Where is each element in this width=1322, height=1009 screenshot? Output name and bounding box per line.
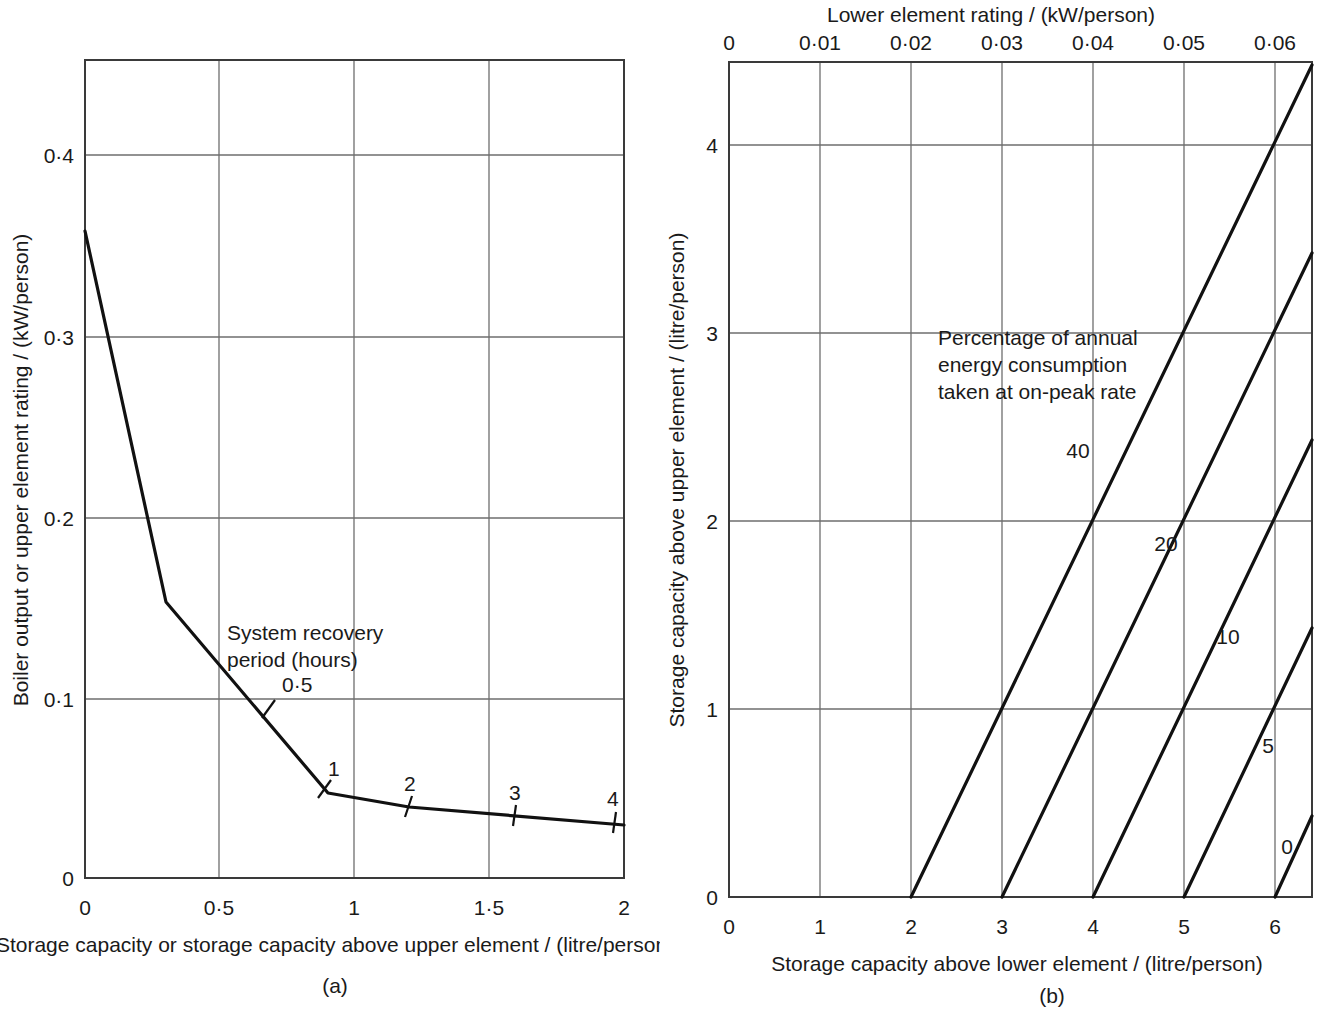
chart-b-line-40 [911, 65, 1312, 897]
chart-a-ytick-0-4: 0·4 [44, 144, 75, 167]
chart-b-line-20 [1002, 253, 1312, 897]
chart-b-top-tick-0-05: 0·05 [1163, 31, 1205, 54]
chart-a-xtick-0: 0 [79, 896, 91, 919]
chart-b-series-label-0: 0 [1281, 835, 1293, 858]
chart-b-xtick-2: 2 [905, 915, 917, 938]
chart-b-ytick-2: 2 [706, 510, 718, 533]
chart-a-annotation-line-1: System recovery [227, 621, 384, 644]
chart-a-xtick-0-5: 0·5 [204, 896, 234, 919]
chart-panel-a: Boiler output or upper element rating / … [0, 0, 660, 1009]
chart-b-frame [729, 62, 1312, 897]
chart-a-curve-markers [262, 700, 616, 833]
chart-a-ytick-0: 0 [62, 867, 74, 890]
chart-a-marker-label-0-5: 0·5 [282, 673, 312, 696]
chart-a-marker-label-3: 3 [509, 781, 521, 804]
chart-b-top-tick-0-03: 0·03 [981, 31, 1023, 54]
chart-b-xtick-5: 5 [1178, 915, 1190, 938]
chart-a-caption: (a) [322, 974, 348, 997]
chart-a-xtick-1-5: 1·5 [474, 896, 504, 919]
chart-b-annotation-line-2: energy consumption [938, 353, 1127, 376]
chart-a-marker-label-2: 2 [404, 772, 416, 795]
chart-b-svg: Lower element rating / (kW/person) 0 0·0… [660, 0, 1322, 1009]
chart-panel-b: Lower element rating / (kW/person) 0 0·0… [660, 0, 1322, 1009]
chart-b-ytick-0: 0 [706, 886, 718, 909]
chart-a-svg: Boiler output or upper element rating / … [0, 0, 660, 1009]
chart-a-ytick-0-3: 0·3 [44, 326, 74, 349]
chart-b-xtick-3: 3 [996, 915, 1008, 938]
chart-b-series-label-20: 20 [1154, 532, 1177, 555]
chart-b-top-tick-0: 0 [723, 31, 735, 54]
figure-container: Boiler output or upper element rating / … [0, 0, 1322, 1009]
chart-b-annotation-line-1: Percentage of annual [938, 326, 1138, 349]
chart-a-y-axis-title: Boiler output or upper element rating / … [9, 234, 32, 707]
chart-b-top-tick-0-02: 0·02 [890, 31, 932, 54]
chart-b-x-axis-title: Storage capacity above lower element / (… [771, 952, 1262, 975]
chart-a-marker-label-1: 1 [328, 757, 340, 780]
chart-a-annotation-line-2: period (hours) [227, 648, 358, 671]
chart-b-series-lines [911, 65, 1312, 897]
chart-b-top-tick-0-04: 0·04 [1072, 31, 1114, 54]
chart-b-ytick-4: 4 [706, 134, 718, 157]
chart-b-xtick-0: 0 [723, 915, 735, 938]
chart-a-xtick-1: 1 [348, 896, 360, 919]
chart-b-ytick-1: 1 [706, 698, 718, 721]
chart-a-ytick-0-1: 0·1 [44, 688, 74, 711]
chart-b-series-label-5: 5 [1262, 734, 1274, 757]
chart-b-xtick-4: 4 [1087, 915, 1099, 938]
chart-b-top-axis-title: Lower element rating / (kW/person) [827, 3, 1155, 26]
chart-b-top-tick-0-01: 0·01 [799, 31, 841, 54]
chart-b-caption: (b) [1039, 984, 1065, 1007]
chart-a-marker-label-4: 4 [607, 787, 619, 810]
chart-a-ytick-0-2: 0·2 [44, 507, 74, 530]
chart-b-series-label-40: 40 [1066, 439, 1089, 462]
chart-b-annotation-line-3: taken at on-peak rate [938, 380, 1136, 403]
chart-b-y-axis-title: Storage capacity above upper element / (… [665, 233, 688, 728]
chart-b-xtick-1: 1 [814, 915, 826, 938]
chart-b-top-tick-0-06: 0·06 [1254, 31, 1296, 54]
chart-b-xtick-6: 6 [1269, 915, 1281, 938]
chart-b-line-10 [1093, 440, 1312, 897]
chart-b-gridlines [729, 62, 1312, 897]
chart-a-x-axis-title: Storage capacity or storage capacity abo… [0, 933, 660, 956]
chart-a-xtick-2: 2 [618, 896, 630, 919]
chart-a-gridlines [85, 60, 624, 878]
chart-b-series-label-10: 10 [1216, 625, 1239, 648]
chart-b-ytick-3: 3 [706, 322, 718, 345]
